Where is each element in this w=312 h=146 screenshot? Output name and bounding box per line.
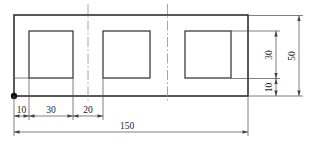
technical-drawing: 10 30 20 150 30 10 50 xyxy=(0,0,312,146)
plate-outline xyxy=(14,15,248,96)
dim-label-left-margin: 10 xyxy=(17,105,27,115)
arrowhead xyxy=(274,79,277,85)
arrowhead xyxy=(274,73,277,79)
arrowhead xyxy=(297,91,300,97)
arrowhead xyxy=(68,114,74,117)
arrowhead xyxy=(98,114,104,117)
arrowhead xyxy=(274,31,277,37)
dim-label-overall-height: 50 xyxy=(287,51,297,61)
hole-1 xyxy=(29,31,73,78)
arrowhead xyxy=(29,114,35,117)
arrowhead xyxy=(274,91,277,97)
dim-label-overall-length: 150 xyxy=(120,121,135,131)
dim-label-hole-width: 30 xyxy=(46,105,56,115)
drawing-canvas: 10 30 20 150 30 10 50 xyxy=(0,0,312,146)
hole-2 xyxy=(103,31,150,78)
arrowhead xyxy=(14,130,20,133)
arrowhead xyxy=(243,130,249,133)
dim-label-hole-height: 30 xyxy=(264,50,274,60)
dim-label-bottom-offset: 10 xyxy=(264,83,274,93)
dim-label-hole-spacing: 20 xyxy=(83,105,93,115)
arrowhead xyxy=(297,16,300,22)
arrowhead xyxy=(73,114,79,117)
hole-3 xyxy=(185,31,231,78)
